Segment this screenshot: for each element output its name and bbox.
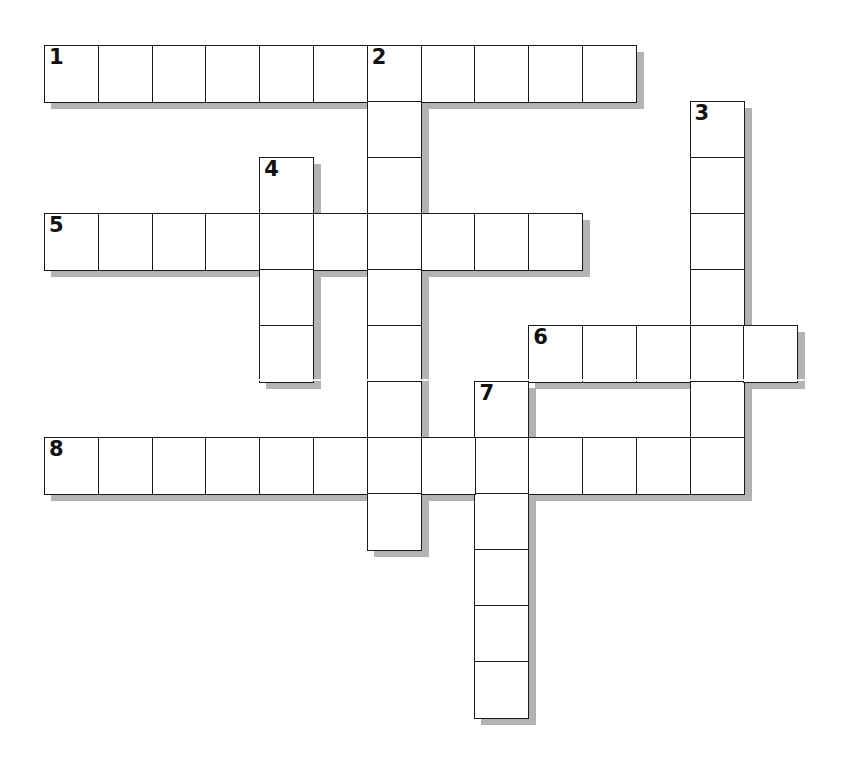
crossword-cell[interactable]: 1 (44, 45, 99, 103)
crossword-cell[interactable] (690, 381, 745, 439)
crossword-cell[interactable] (205, 437, 260, 495)
crossword-cell[interactable] (98, 213, 153, 271)
crossword-cell[interactable] (259, 325, 314, 383)
crossword-cell[interactable] (367, 101, 422, 159)
crossword-cell[interactable] (636, 437, 691, 495)
clue-number: 2 (372, 47, 387, 68)
crossword-cell[interactable] (474, 45, 529, 103)
crossword-cell[interactable] (743, 325, 798, 383)
crossword-cell[interactable] (367, 157, 422, 215)
clue-number: 3 (695, 103, 710, 124)
crossword-cell[interactable] (367, 381, 422, 439)
crossword-cell[interactable] (582, 437, 637, 495)
crossword-cell[interactable]: 4 (259, 157, 314, 215)
crossword-cell[interactable] (152, 213, 207, 271)
clue-number: 7 (479, 383, 494, 404)
crossword-cell[interactable]: 5 (44, 213, 99, 271)
crossword-cell[interactable]: 3 (690, 101, 745, 159)
crossword-cell[interactable] (528, 437, 583, 495)
crossword-cell[interactable] (421, 213, 476, 271)
crossword-cell[interactable] (474, 493, 529, 551)
crossword-cell[interactable] (474, 605, 529, 663)
crossword-cell[interactable] (636, 325, 691, 383)
crossword-cell[interactable] (259, 269, 314, 327)
crossword-cell[interactable] (367, 325, 422, 383)
crossword-cell[interactable] (528, 213, 583, 271)
crossword-cell[interactable] (259, 437, 314, 495)
clue-number: 1 (49, 47, 64, 68)
crossword-cell[interactable] (690, 437, 745, 495)
crossword-cell[interactable] (367, 213, 422, 271)
clue-number: 6 (533, 327, 548, 348)
crossword-cell[interactable] (474, 661, 529, 719)
crossword-cell[interactable] (690, 325, 745, 383)
crossword-cell[interactable] (313, 437, 368, 495)
crossword-cell[interactable] (421, 45, 476, 103)
crossword-cell[interactable] (205, 45, 260, 103)
crossword-cell[interactable] (313, 45, 368, 103)
crossword-cell[interactable] (313, 213, 368, 271)
crossword-cell[interactable] (474, 437, 529, 495)
crossword-cell[interactable] (528, 45, 583, 103)
crossword-cell[interactable] (259, 213, 314, 271)
crossword-cell[interactable] (582, 45, 637, 103)
crossword-cell[interactable]: 8 (44, 437, 99, 495)
scan-artifact-line (0, 379, 857, 381)
crossword-cell[interactable] (690, 157, 745, 215)
clue-number: 5 (49, 215, 64, 236)
crossword-cell[interactable] (421, 437, 476, 495)
clue-number: 8 (49, 439, 64, 460)
crossword-cell[interactable] (582, 325, 637, 383)
crossword-cell[interactable] (367, 493, 422, 551)
clue-number: 4 (264, 159, 279, 180)
crossword-cell[interactable] (259, 45, 314, 103)
crossword-cell[interactable] (367, 269, 422, 327)
crossword-cell[interactable] (690, 269, 745, 327)
crossword-cell[interactable]: 7 (474, 381, 529, 439)
crossword-cell[interactable] (205, 213, 260, 271)
crossword-cell[interactable]: 2 (367, 45, 422, 103)
crossword-cell[interactable] (152, 437, 207, 495)
crossword-cell[interactable] (98, 45, 153, 103)
crossword-cell[interactable] (474, 213, 529, 271)
crossword-cell[interactable] (367, 437, 422, 495)
crossword-cell[interactable] (690, 213, 745, 271)
crossword-cell[interactable]: 6 (528, 325, 583, 383)
crossword-cell[interactable] (152, 45, 207, 103)
crossword-cell[interactable] (98, 437, 153, 495)
crossword-cell[interactable] (474, 549, 529, 607)
